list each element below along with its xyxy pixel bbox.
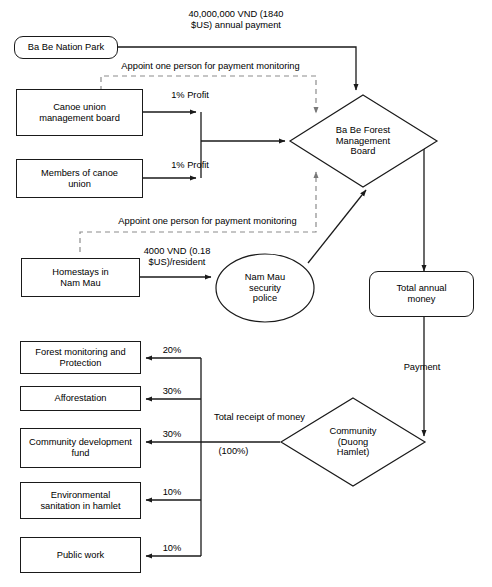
node-total-annual-money-label: Total annualmoney <box>396 283 446 305</box>
node-nam-mau-security-police[interactable]: Nam Mausecuritypolice <box>216 254 314 322</box>
edge-label-percent-forest-monitoring: 20% <box>155 345 189 356</box>
flowchart-diagram: Ba Be Nation Park Canoe unionmanagement … <box>0 0 492 587</box>
edge-label-total-receipt: Total receipt of money <box>197 412 322 423</box>
node-afforestation-label: Afforestation <box>54 393 106 404</box>
node-canoe-union-management-board[interactable]: Canoe unionmanagement board <box>16 89 143 136</box>
node-community-development-fund-label: Community developmentfund <box>29 437 132 459</box>
node-afforestation[interactable]: Afforestation <box>20 386 141 411</box>
node-ba-be-forest-management-board[interactable]: Ba Be ForestManagementBoard <box>303 112 423 170</box>
edge-label-profit-members: 1% Profit <box>160 160 220 171</box>
edge-label-percent-community-fund: 30% <box>155 429 189 440</box>
edge-label-profit-canoe-board: 1% Profit <box>160 90 220 101</box>
node-total-annual-money[interactable]: Total annualmoney <box>369 271 474 317</box>
node-community-duong-hamlet-label: Community(DuongHamlet) <box>329 426 376 459</box>
node-homestays-in-nam-mau[interactable]: Homestays inNam Mau <box>21 258 140 297</box>
edge-label-annual-payment: 40,000,000 VND (1840$US) annual payment <box>148 9 324 31</box>
edge-label-homestay-fee: 4000 VND (0.18$US)/resident <box>134 246 220 268</box>
node-ba-be-nation-park[interactable]: Ba Be Nation Park <box>14 36 118 59</box>
edge-label-total-receipt-percent: (100%) <box>206 446 261 457</box>
edge-label-percent-public-work: 10% <box>155 543 189 554</box>
edge-label-appoint-bottom: Appoint one person for payment monitorin… <box>100 216 315 227</box>
node-forest-monitoring-and-protection[interactable]: Forest monitoring andProtection <box>20 341 141 374</box>
edge-label-payment: Payment <box>377 362 467 373</box>
node-nam-mau-security-police-label: Nam Mausecuritypolice <box>245 272 285 305</box>
node-environmental-sanitation-in-hamlet[interactable]: Environmentalsanitation in hamlet <box>20 482 141 519</box>
node-ba-be-forest-management-board-label: Ba Be ForestManagementBoard <box>336 125 390 158</box>
edge-police-to-fmb <box>308 190 366 263</box>
edge-label-percent-afforestation: 30% <box>155 386 189 397</box>
node-members-of-canoe-union[interactable]: Members of canoeunion <box>16 159 143 198</box>
node-forest-monitoring-and-protection-label: Forest monitoring andProtection <box>35 347 125 369</box>
node-homestays-in-nam-mau-label: Homestays inNam Mau <box>52 267 108 289</box>
edge-label-percent-environmental-sanitation: 10% <box>155 487 189 498</box>
node-canoe-union-management-board-label: Canoe unionmanagement board <box>39 102 120 124</box>
edge-label-appoint-top: Appoint one person for payment monitorin… <box>103 61 318 72</box>
node-community-development-fund[interactable]: Community developmentfund <box>20 428 141 468</box>
node-public-work[interactable]: Public work <box>20 537 141 573</box>
node-environmental-sanitation-in-hamlet-label: Environmentalsanitation in hamlet <box>40 490 120 512</box>
node-members-of-canoe-union-label: Members of canoeunion <box>41 168 118 190</box>
node-ba-be-nation-park-label: Ba Be Nation Park <box>28 42 104 53</box>
node-public-work-label: Public work <box>57 550 105 561</box>
